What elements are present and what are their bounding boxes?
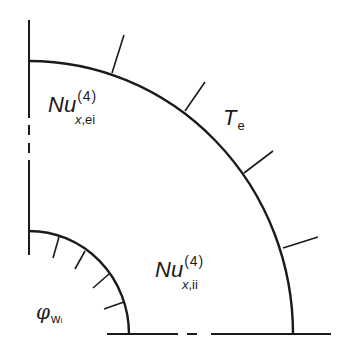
inner-nusselt-main: Nu (155, 257, 183, 282)
inner-heat-flux-subsubscript: i (60, 316, 62, 325)
inner-heat-flux-label: φwi (36, 300, 61, 324)
outer-temperature-label: Te (223, 105, 244, 131)
inner-nusselt-label: Nu(4) x,ii (155, 257, 203, 283)
inner-heat-flux-subscript: w (51, 311, 60, 326)
inner-nusselt-subscript-rest: ,ii (189, 277, 198, 292)
outer-temperature-main: T (223, 105, 236, 130)
inner-nusselt-subscript: x,ii (182, 277, 198, 292)
outer-nusselt-main: Nu (48, 92, 76, 117)
outer-nusselt-superscript: (4) (77, 88, 97, 104)
inner-wall-hatch (53, 237, 124, 309)
outer-temperature-subscript: e (237, 118, 244, 133)
annulus-diagram (0, 0, 357, 347)
outer-nusselt-subscript: x,ei (75, 112, 95, 127)
outer-nusselt-subscript-rest: ,ei (82, 112, 96, 127)
inner-heat-flux-main: φ (36, 300, 50, 324)
outer-nusselt-label: Nu(4) x,ei (48, 92, 96, 118)
inner-nusselt-superscript: (4) (184, 253, 204, 269)
